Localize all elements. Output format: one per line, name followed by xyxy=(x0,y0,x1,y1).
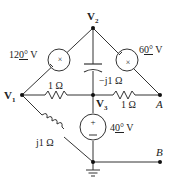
label-capacitor: −j1 Ω xyxy=(99,75,122,86)
label-source-4v: 40° V xyxy=(110,122,134,133)
label-v2: V2 xyxy=(87,10,99,25)
label-v1: V1 xyxy=(4,89,16,104)
node-v1 xyxy=(20,93,24,97)
node-v3 xyxy=(91,93,95,97)
source-12v: × xyxy=(48,49,70,71)
inductor xyxy=(42,114,64,129)
polarity-plus-icon: + xyxy=(90,117,95,127)
label-source-12v: 120° V xyxy=(9,49,38,60)
node-a xyxy=(158,93,162,97)
node-v2 xyxy=(91,26,95,30)
label-resistor-left: 1 Ω xyxy=(48,80,63,91)
capacitor xyxy=(84,64,102,72)
resistor-right xyxy=(113,91,135,99)
label-resistor-right: 1 Ω xyxy=(121,99,136,110)
label-v3: V3 xyxy=(96,97,108,112)
label-inductor: j1 Ω xyxy=(35,137,54,148)
polarity-plus-icon: × xyxy=(58,55,63,64)
ground-icon xyxy=(86,170,100,176)
label-a: A xyxy=(155,98,163,110)
label-b: B xyxy=(156,146,163,158)
polarity-plus-icon: × xyxy=(126,58,131,67)
resistor-left xyxy=(45,91,67,99)
circuit-diagram: × × + V2 V1 V3 A B 120° V 60° V 40° V −j… xyxy=(0,0,175,185)
node-b xyxy=(158,160,162,164)
source-6v: × xyxy=(116,49,138,71)
node-ground xyxy=(91,160,95,164)
label-source-6v: 60° V xyxy=(139,44,163,55)
source-4v: + xyxy=(80,114,106,140)
